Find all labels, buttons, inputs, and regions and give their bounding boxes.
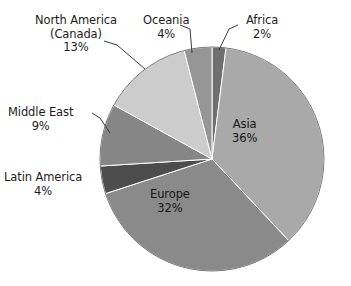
pie-chart: North America (Canada) 13% Oceania 4% Af…: [0, 0, 351, 286]
slice-label-north-america: North America (Canada) 13%: [35, 14, 117, 55]
slice-label-oceania: Oceania 4%: [143, 14, 189, 41]
slice-label-europe: Europe 32%: [150, 188, 190, 215]
slice-label-asia-text: Asia: [233, 117, 257, 131]
slice-value-asia: 36%: [232, 132, 257, 146]
leader-line-africa: [219, 25, 238, 50]
slice-label-north-america-line1: North America: [35, 13, 117, 27]
slice-label-asia: Asia 36%: [232, 118, 257, 145]
slice-label-oceania-text: Oceania: [143, 13, 189, 27]
slice-value-europe: 32%: [150, 202, 190, 216]
slice-value-middle-east: 9%: [8, 120, 73, 134]
slice-value-africa: 2%: [246, 28, 278, 42]
pie-wedge-group: [100, 47, 324, 271]
slice-label-latin-america-text: Latin America: [4, 170, 82, 184]
slice-label-north-america-line2: (Canada): [35, 28, 117, 42]
slice-label-africa-text: Africa: [246, 13, 278, 27]
slice-label-middle-east-text: Middle East: [8, 105, 73, 119]
slice-value-north-america: 13%: [35, 41, 117, 55]
slice-label-latin-america: Latin America 4%: [4, 171, 82, 198]
slice-value-latin-america: 4%: [4, 185, 82, 199]
slice-label-europe-text: Europe: [150, 187, 190, 201]
slice-label-africa: Africa 2%: [246, 14, 278, 41]
slice-value-oceania: 4%: [143, 28, 189, 42]
slice-label-middle-east: Middle East 9%: [8, 106, 73, 133]
